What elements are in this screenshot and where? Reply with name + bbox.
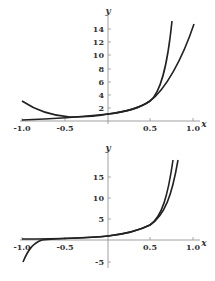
x-tick-label: -0.5	[56, 242, 73, 252]
x-axis-label: x	[200, 238, 207, 248]
y-tick-label: 5	[98, 214, 104, 224]
x-tick-label: -1.0	[13, 123, 31, 133]
y-tick-label: 15	[93, 172, 104, 182]
y-tick-label: 6	[98, 77, 104, 87]
y-tick-label: 14	[93, 24, 105, 34]
y-axis-label: y	[104, 6, 111, 16]
plot-bottom: 15 10 5 -5 -1.0 -0.5 0.5 1.0 y x	[13, 143, 207, 268]
plot-top: 2 4 6 8 10 12 14 -1.0 -0.5 0.5 1.0 y x	[13, 6, 207, 133]
x-tick-label: 1.0	[186, 242, 200, 252]
figure: 2 4 6 8 10 12 14 -1.0 -0.5 0.5 1.0 y x 1…	[0, 0, 215, 281]
x-tick-label: 1.0	[186, 123, 200, 133]
y-tick-label: -5	[95, 257, 104, 267]
y-tick-label: 10	[93, 193, 105, 203]
y-tick-label: 2	[98, 103, 104, 113]
curve-1	[22, 21, 172, 120]
y-tick-label: 10	[93, 50, 105, 60]
x-axis-label: x	[200, 119, 207, 129]
x-tick-label: 0.5	[143, 123, 157, 133]
y-tick-label: 12	[93, 37, 104, 47]
x-tick-label: 0.5	[143, 242, 157, 252]
y-tick-label: 8	[98, 64, 104, 74]
x-tick-label: -0.5	[56, 123, 73, 133]
y-tick-label: 4	[98, 90, 104, 100]
y-axis-label: y	[104, 143, 111, 153]
